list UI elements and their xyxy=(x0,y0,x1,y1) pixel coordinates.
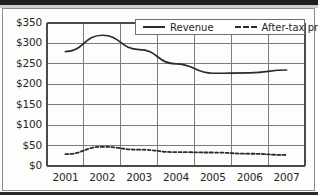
y-axis-tick-label: $250 xyxy=(0,57,42,69)
x-axis-tick-label: 2003 xyxy=(121,171,158,183)
data-series xyxy=(65,35,286,155)
legend-key-solid-line-icon xyxy=(143,22,165,32)
legend-label-revenue: Revenue xyxy=(170,22,214,33)
axis-lines xyxy=(47,23,305,166)
chart-legend: Revenue After-tax profit xyxy=(135,19,305,35)
series-line-revenue xyxy=(65,35,286,73)
chart-figure: $0$50$100$150$200$250$300$350 2001200220… xyxy=(0,0,318,195)
legend-label-after-tax-profit: After-tax profit xyxy=(262,22,318,33)
y-axis-tick-label: $350 xyxy=(0,16,42,28)
x-axis-tick-label: 2006 xyxy=(231,171,268,183)
x-axis-tick-label: 2001 xyxy=(47,171,84,183)
x-axis-tick-label: 2004 xyxy=(158,171,195,183)
y-axis-tick-label: $300 xyxy=(0,36,42,48)
y-axis-tick-label: $200 xyxy=(0,77,42,89)
legend-item-after-tax-profit: After-tax profit xyxy=(228,20,318,34)
x-axis-tick-label: 2002 xyxy=(84,171,121,183)
x-axis-tick-label: 2007 xyxy=(268,171,305,183)
y-axis-tick-label: $150 xyxy=(0,98,42,110)
y-axis-tick-label: $100 xyxy=(0,118,42,130)
gridlines xyxy=(47,23,305,166)
x-axis-tick-label: 2005 xyxy=(194,171,231,183)
y-axis-tick-label: $0 xyxy=(0,159,42,171)
legend-item-revenue: Revenue xyxy=(136,20,214,34)
series-line-after-tax-profit xyxy=(65,147,286,155)
legend-key-dashed-line-icon xyxy=(235,22,257,32)
y-axis-tick-label: $50 xyxy=(0,139,42,151)
